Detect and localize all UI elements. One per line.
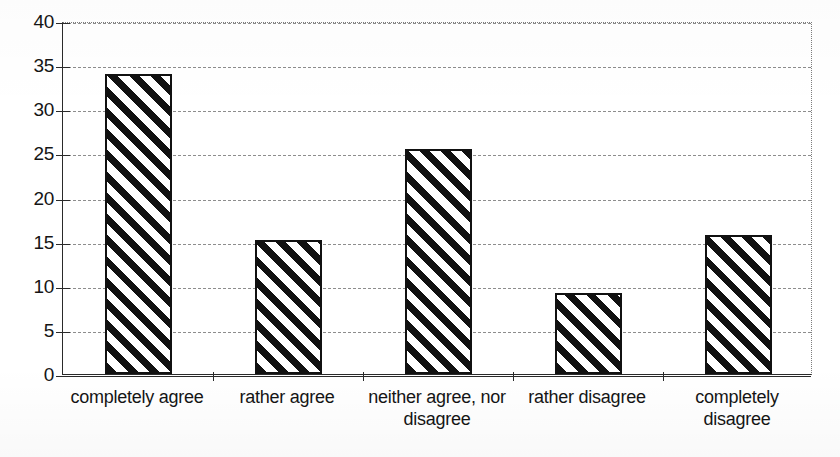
bar-chart: completely agreerather agreeneither agre…: [0, 0, 840, 457]
bar-0: [105, 74, 172, 374]
y-axis-label-35: 35: [14, 56, 54, 75]
y-axis-label-30: 30: [14, 100, 54, 119]
gridline-0: [63, 376, 811, 377]
bar-2: [405, 149, 472, 374]
bar-4: [705, 235, 772, 374]
y-axis-tick-25: [56, 155, 70, 156]
x-axis-tick-3: [663, 372, 664, 381]
gridline-35: [63, 67, 811, 68]
y-axis-label-20: 20: [14, 189, 54, 208]
y-axis-tick-40: [56, 23, 70, 24]
y-axis-tick-0: [56, 376, 70, 377]
x-axis-category-label-0: completely agree: [62, 386, 212, 408]
y-axis-tick-20: [56, 200, 70, 201]
x-axis-category-label-1: rather agree: [212, 386, 362, 408]
x-axis-tick-0: [213, 372, 214, 381]
y-axis-label-25: 25: [14, 144, 54, 163]
y-axis-label-15: 15: [14, 233, 54, 252]
y-axis-label-10: 10: [14, 277, 54, 296]
y-axis-label-5: 5: [14, 321, 54, 340]
bar-1: [255, 240, 322, 374]
y-axis-tick-10: [56, 288, 70, 289]
gridline-40: [63, 23, 811, 24]
y-axis-label-0: 0: [14, 365, 54, 384]
x-axis-tick-2: [513, 372, 514, 381]
y-axis-tick-15: [56, 244, 70, 245]
plot-area: [62, 22, 812, 375]
gridline-30: [63, 111, 811, 112]
y-axis-tick-35: [56, 67, 70, 68]
x-axis-category-label-3: rather disagree: [512, 386, 662, 408]
y-axis-tick-5: [56, 332, 70, 333]
x-axis-category-label-2: neither agree, nor disagree: [362, 386, 512, 430]
bar-3: [555, 293, 622, 374]
x-axis-category-label-4: completely disagree: [662, 386, 812, 430]
y-axis-label-40: 40: [14, 12, 54, 31]
y-axis-tick-30: [56, 111, 70, 112]
x-axis-tick-1: [363, 372, 364, 381]
